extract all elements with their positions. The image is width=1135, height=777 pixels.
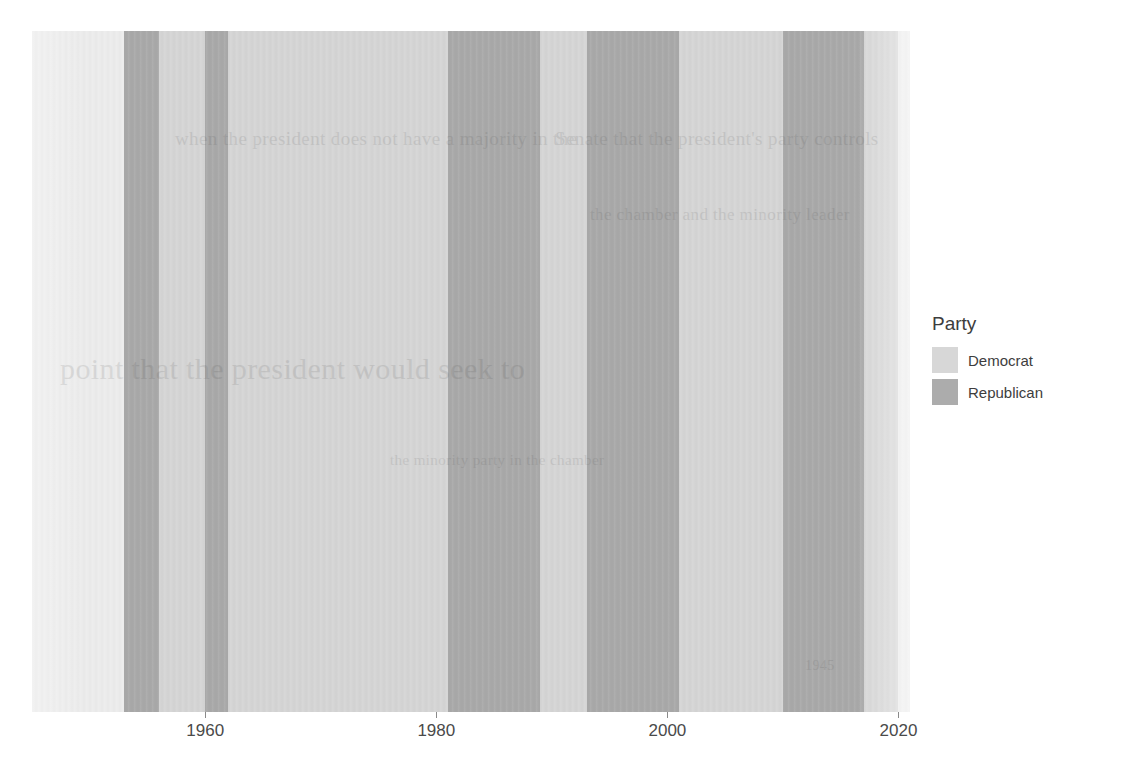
x-axis-tick-label: 1960: [186, 721, 224, 741]
party-band: [159, 31, 205, 712]
x-axis-tick-label: 1980: [417, 721, 455, 741]
party-band: [228, 31, 448, 712]
legend-item[interactable]: Democrat: [932, 347, 1122, 373]
legend-swatch-icon: [932, 379, 958, 405]
legend-title: Party: [932, 313, 1122, 335]
party-band: [587, 31, 679, 712]
legend-item-label: Republican: [968, 384, 1043, 401]
legend-item[interactable]: Republican: [932, 379, 1122, 405]
x-axis-tick-label: 2020: [880, 721, 918, 741]
legend: Party DemocratRepublican: [932, 313, 1122, 411]
plot-panel: [32, 31, 910, 712]
party-band: [783, 31, 864, 712]
party-band: [124, 31, 159, 712]
party-band: [540, 31, 586, 712]
chart-container: 1960198020002020 Party DemocratRepublica…: [0, 0, 1135, 777]
party-band: [679, 31, 783, 712]
party-band: [898, 31, 910, 712]
legend-items: DemocratRepublican: [932, 347, 1122, 405]
x-axis-tick-mark: [898, 712, 899, 718]
x-axis-tick-label: 2000: [648, 721, 686, 741]
legend-item-label: Democrat: [968, 352, 1033, 369]
x-axis-tick-mark: [436, 712, 437, 718]
party-band: [32, 31, 124, 712]
x-axis-tick-mark: [667, 712, 668, 718]
party-band: [448, 31, 540, 712]
legend-swatch-icon: [932, 347, 958, 373]
party-band: [205, 31, 228, 712]
party-band: [864, 31, 899, 712]
x-axis: 1960198020002020: [32, 712, 910, 772]
x-axis-tick-mark: [205, 712, 206, 718]
